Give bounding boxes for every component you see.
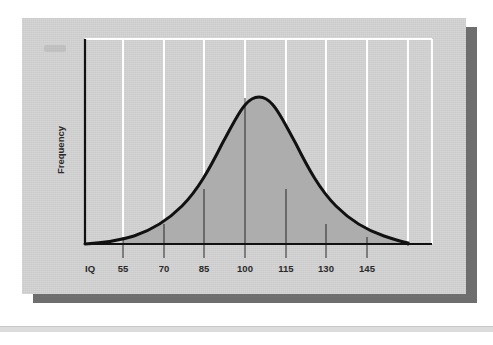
iq-row-label: IQ	[85, 263, 95, 274]
z-score-tick-label: +3	[362, 292, 373, 294]
iq-tick-label: 55	[118, 263, 129, 274]
figure-card: Frequency IQ 55 70 85 100 115 130 145 z …	[22, 18, 466, 294]
iq-tick-label: 70	[159, 263, 170, 274]
curve-shaded-area	[123, 78, 408, 248]
z-score-tick-label: –1	[199, 292, 210, 294]
iq-tick-label: 145	[359, 263, 376, 274]
z-score-tick-label: 0	[242, 292, 247, 294]
y-axis-label: Frequency	[55, 125, 66, 174]
iq-tick-label: 130	[318, 263, 334, 274]
z-score-tick-label: –2	[159, 292, 170, 294]
z-score-row-label: z score	[84, 292, 118, 294]
z-score-tick-label: –3	[118, 292, 129, 294]
z-score-label-rest: score	[90, 292, 118, 294]
iq-tick-label: 115	[278, 263, 294, 274]
z-score-tick-label: +2	[321, 292, 332, 294]
z-score-tick-label: +1	[281, 292, 293, 294]
iq-tick-labels: 55 70 85 100 115 130 145	[118, 263, 376, 274]
z-score-tick-labels: –3 –2 –1 0 +1 +2 +3	[118, 292, 373, 294]
iq-tick-label: 100	[237, 263, 253, 274]
x-axis-ticks	[123, 244, 367, 258]
page-bottom-rule	[0, 327, 493, 332]
page-canvas: Frequency IQ 55 70 85 100 115 130 145 z …	[0, 0, 493, 345]
iq-tick-label: 85	[199, 263, 210, 274]
iq-distribution-chart: Frequency IQ 55 70 85 100 115 130 145 z …	[22, 18, 466, 294]
